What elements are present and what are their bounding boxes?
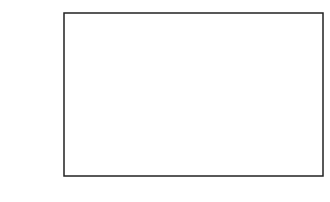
bar-chart [0, 0, 330, 202]
plot-frame [64, 13, 323, 176]
